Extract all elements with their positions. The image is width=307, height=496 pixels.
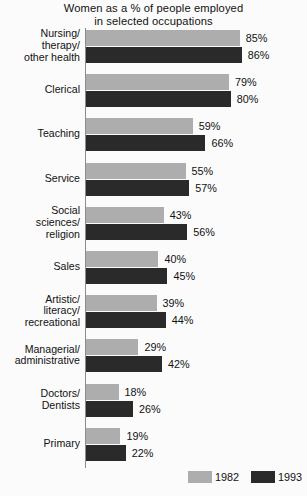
bar-row: Primary19%22% [0, 427, 307, 463]
bar-row: Doctors/Dentists18%26% [0, 383, 307, 419]
category-label: Doctors/Dentists [2, 388, 80, 412]
category-label-line: other health [2, 52, 80, 64]
category-label-line: Service [2, 173, 80, 185]
bar-value-1993: 42% [168, 356, 190, 372]
bar-1993 [86, 312, 166, 328]
category-label: Teaching [2, 128, 80, 140]
category-label-line: Teaching [2, 128, 80, 140]
bar-row: Teaching59%66% [0, 117, 307, 153]
category-label: Managerial/administrative [2, 344, 80, 368]
bar-value-1982: 19% [126, 428, 148, 444]
bar-1982 [86, 339, 138, 355]
category-label-line: Clerical [2, 84, 80, 96]
bar-1982 [86, 118, 193, 134]
bar-1993 [86, 224, 187, 240]
category-label: Clerical [2, 84, 80, 96]
legend-label-1982: 1982 [215, 470, 239, 484]
bar-value-1982: 40% [164, 251, 186, 267]
bar-row: Socialsciences/religion43%56% [0, 206, 307, 242]
bar-value-1982: 85% [246, 30, 268, 46]
bar-value-1982: 55% [192, 163, 214, 179]
bar-value-1982: 29% [144, 339, 166, 355]
legend-swatch-1993 [251, 471, 275, 483]
bar-value-1993: 26% [139, 401, 161, 417]
bar-1982 [86, 74, 229, 90]
category-label: Nursing/therapy/other health [2, 28, 80, 63]
category-label-line: religion [2, 229, 80, 241]
bar-value-1993: 80% [237, 91, 259, 107]
bar-value-1993: 66% [211, 135, 233, 151]
bar-1982 [86, 251, 158, 267]
bar-row: Artistic/literacy/recreational39%44% [0, 294, 307, 330]
category-label-line: Sales [2, 261, 80, 273]
bar-value-1982: 43% [170, 207, 192, 223]
bar-1993 [86, 445, 126, 461]
bar-value-1982: 79% [235, 74, 257, 90]
bar-value-1982: 39% [163, 295, 185, 311]
bar-1982 [86, 30, 240, 46]
bar-1982 [86, 384, 119, 400]
bar-1982 [86, 163, 186, 179]
bar-value-1993: 56% [193, 224, 215, 240]
bar-1982 [86, 295, 157, 311]
bar-1993 [86, 135, 205, 151]
chart-title: Women as a % of people employed in selec… [0, 2, 307, 28]
legend-swatch-1982 [188, 471, 212, 483]
bar-row: Nursing/therapy/other health85%86% [0, 29, 307, 65]
category-label-line: sciences/ [2, 217, 80, 229]
category-label: Service [2, 173, 80, 185]
bar-1993 [86, 268, 167, 284]
category-label: Sales [2, 261, 80, 273]
bar-1993 [86, 356, 162, 372]
bar-value-1993: 22% [132, 445, 154, 461]
plot-area: Nursing/therapy/other health85%86%Cleric… [0, 28, 307, 468]
bar-1993 [86, 401, 133, 417]
category-label-line: recreational [2, 317, 80, 329]
category-label: Primary [2, 438, 80, 450]
bar-value-1993: 57% [195, 180, 217, 196]
bar-row: Service55%57% [0, 162, 307, 198]
chart-title-line-1: Women as a % of people employed [0, 2, 307, 15]
category-label: Artistic/literacy/recreational [2, 294, 80, 329]
bar-row: Clerical79%80% [0, 73, 307, 109]
chart-legend: 1982 1993 [188, 470, 307, 486]
bar-value-1993: 86% [248, 47, 270, 63]
category-label-line: Primary [2, 438, 80, 450]
category-label-line: Doctors/ [2, 388, 80, 400]
bar-row: Sales40%45% [0, 250, 307, 286]
bar-row: Managerial/administrative29%42% [0, 338, 307, 374]
bar-1993 [86, 180, 189, 196]
bar-value-1993: 44% [172, 312, 194, 328]
bar-value-1982: 18% [125, 384, 147, 400]
bar-1982 [86, 207, 164, 223]
category-label-line: administrative [2, 355, 80, 367]
bar-1993 [86, 91, 231, 107]
category-label-line: Dentists [2, 400, 80, 412]
bar-value-1982: 59% [199, 118, 221, 134]
bar-value-1993: 45% [173, 268, 195, 284]
legend-label-1993: 1993 [278, 470, 302, 484]
category-label: Socialsciences/religion [2, 205, 80, 240]
bar-1982 [86, 428, 120, 444]
bar-1993 [86, 47, 242, 63]
